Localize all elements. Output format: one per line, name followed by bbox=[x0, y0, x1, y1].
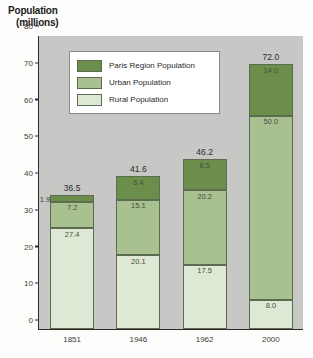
y-axis-tick-label: 10 bbox=[24, 279, 35, 288]
y-axis-tick: 10 bbox=[24, 279, 39, 288]
legend-swatch-urban bbox=[77, 77, 102, 89]
bar-segment-paris-region[interactable]: 1.9 bbox=[50, 195, 94, 202]
bar-stack: 27.47.21.9 bbox=[50, 195, 94, 329]
y-axis-tick-mark bbox=[35, 319, 39, 320]
segment-value-label: 1.9 bbox=[40, 195, 50, 204]
y-axis-tick-label: 50 bbox=[24, 132, 35, 141]
chart-legend: Paris Region Population Urban Population… bbox=[69, 51, 220, 114]
legend-swatch-paris-region bbox=[77, 60, 102, 72]
segment-value-label: 14.0 bbox=[264, 66, 279, 75]
legend-item-paris-region[interactable]: Paris Region Population bbox=[77, 57, 213, 74]
bar-segment-urban[interactable]: 20.2 bbox=[183, 190, 227, 264]
segment-value-label: 15.1 bbox=[131, 201, 146, 210]
y-axis-tick-mark bbox=[35, 62, 39, 63]
y-axis-tick-mark bbox=[35, 99, 39, 100]
y-axis-tick-mark bbox=[35, 136, 39, 137]
bar-total-label: 46.2 bbox=[183, 147, 227, 157]
legend-label-urban: Urban Population bbox=[102, 78, 171, 87]
y-axis-tick-label: 70 bbox=[24, 58, 35, 67]
bar-segment-urban[interactable]: 50.0 bbox=[249, 116, 293, 300]
legend-swatch-rural bbox=[77, 94, 102, 106]
x-axis-tick-label: 2000 bbox=[249, 329, 293, 344]
bar-total-label: 41.6 bbox=[116, 164, 160, 174]
legend-item-urban[interactable]: Urban Population bbox=[77, 74, 213, 91]
y-axis-tick: 70 bbox=[24, 58, 39, 67]
legend-label-paris-region: Paris Region Population bbox=[102, 61, 195, 70]
segment-value-label: 6.4 bbox=[133, 178, 143, 187]
legend-item-rural[interactable]: Rural Population bbox=[77, 91, 213, 108]
y-axis-tick-mark bbox=[35, 283, 39, 284]
bar-segment-rural[interactable]: 20.1 bbox=[116, 255, 160, 329]
y-axis-tick: 20 bbox=[24, 242, 39, 251]
y-axis-tick-mark bbox=[35, 25, 39, 26]
bar-segment-urban[interactable]: 7.2 bbox=[50, 202, 94, 228]
bar-stack: 8.050.014.0 bbox=[249, 64, 293, 329]
y-axis-tick-label: 30 bbox=[24, 205, 35, 214]
segment-value-label: 7.2 bbox=[67, 203, 77, 212]
bar-segment-rural[interactable]: 17.5 bbox=[183, 265, 227, 329]
y-axis-tick-label: 80 bbox=[24, 22, 35, 31]
x-axis-tick-label: 1962 bbox=[183, 329, 227, 344]
bar-segment-rural[interactable]: 8.0 bbox=[249, 300, 293, 329]
bar-stack: 17.520.28.5 bbox=[183, 159, 227, 329]
y-axis-tick: 80 bbox=[24, 22, 39, 31]
bar-segment-rural[interactable]: 27.4 bbox=[50, 228, 94, 329]
y-axis-tick-mark bbox=[35, 209, 39, 210]
x-axis-tick-label: 1851 bbox=[50, 329, 94, 344]
segment-value-label: 50.0 bbox=[264, 117, 279, 126]
segment-value-label: 20.1 bbox=[131, 257, 146, 266]
bar-segment-paris-region[interactable]: 14.0 bbox=[249, 64, 293, 115]
bar-total-label: 72.0 bbox=[249, 52, 293, 62]
y-axis-tick-mark bbox=[35, 246, 39, 247]
y-axis-tick: 30 bbox=[24, 205, 39, 214]
y-axis-tick-label: 60 bbox=[24, 95, 35, 104]
segment-value-label: 8.5 bbox=[199, 161, 209, 170]
y-axis-tick-label: 20 bbox=[24, 242, 35, 251]
y-axis-tick: 60 bbox=[24, 95, 39, 104]
segment-value-label: 17.5 bbox=[197, 266, 212, 275]
y-axis-title-line1: Population bbox=[8, 5, 58, 16]
bar-total-label: 36.5 bbox=[50, 183, 94, 193]
bar-stack: 20.115.16.4 bbox=[116, 176, 160, 329]
bar-segment-paris-region[interactable]: 8.5 bbox=[183, 159, 227, 190]
bar-segment-paris-region[interactable]: 6.4 bbox=[116, 176, 160, 200]
y-axis-tick: 50 bbox=[24, 132, 39, 141]
y-axis-tick: 0 bbox=[29, 316, 39, 325]
segment-value-label: 8.0 bbox=[266, 301, 276, 310]
y-axis-tick-mark bbox=[35, 172, 39, 173]
legend-label-rural: Rural Population bbox=[102, 95, 168, 104]
x-axis-tick-label: 1946 bbox=[116, 329, 160, 344]
y-axis-tick: 40 bbox=[24, 169, 39, 178]
segment-value-label: 27.4 bbox=[65, 230, 80, 239]
segment-value-label: 20.2 bbox=[197, 192, 212, 201]
stacked-bar-chart: Population (millions) 807060504030201002… bbox=[0, 0, 313, 358]
y-axis-tick-label: 40 bbox=[24, 169, 35, 178]
bar-segment-urban[interactable]: 15.1 bbox=[116, 200, 160, 255]
